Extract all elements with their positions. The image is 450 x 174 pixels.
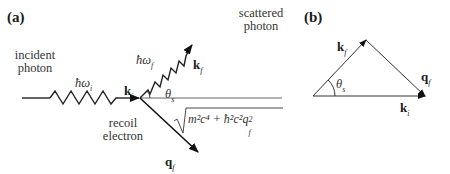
scattered-energy-symbol: ħω — [136, 53, 151, 67]
incident-energy-sub: i — [90, 84, 92, 93]
kf-sub-b: f — [344, 48, 346, 57]
qf-sub-b: f — [428, 78, 430, 87]
compton-scattering-diagram — [0, 0, 450, 174]
theta-label-a: θs — [165, 88, 174, 101]
scattered-photon-label: scattered photon — [232, 7, 290, 33]
panel-b-label: (b) — [304, 10, 322, 25]
ki-sub-a: i — [131, 92, 133, 101]
recoil-electron-line2: electron — [100, 130, 146, 143]
scattered-energy-sub: f — [151, 61, 153, 70]
electron-energy-expression: m²c⁴ + ħ²c²q2f — [188, 113, 255, 125]
incident-energy-symbol: ħω — [75, 76, 90, 90]
panel-a-label: (a) — [7, 10, 25, 25]
scattered-energy-label: ħωf — [136, 54, 153, 67]
theta-sub-a: s — [171, 95, 174, 104]
momentum-triangle — [313, 40, 425, 96]
kf-sub-a: f — [200, 66, 202, 75]
recoil-electron-label: recoil electron — [100, 117, 146, 143]
kf-label-a: kf — [193, 58, 202, 71]
ki-sub-b: i — [407, 109, 409, 118]
incident-photon-line2: photon — [10, 62, 60, 75]
theta-sub-b: s — [342, 85, 345, 94]
qf-label-a: qf — [165, 155, 174, 168]
incident-energy-label: ħωi — [75, 77, 92, 90]
incident-photon-line — [22, 91, 139, 104]
theta-label-b: θs — [336, 78, 345, 91]
kf-label-b: kf — [337, 40, 346, 53]
ki-label-b: ki — [400, 101, 409, 114]
electron-energy-text: m²c⁴ + ħ²c²q — [188, 112, 248, 126]
ki-label-a: ki — [124, 84, 133, 97]
qf-label-b: qf — [421, 70, 430, 83]
qf-sub-a: f — [172, 163, 174, 172]
scattered-photon-line2: photon — [232, 20, 290, 33]
incident-photon-label: incident photon — [10, 49, 60, 75]
